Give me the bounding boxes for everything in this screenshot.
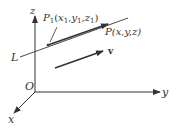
x-axis bbox=[14, 92, 35, 113]
vector-v-label: v bbox=[107, 46, 114, 56]
p1-pointer bbox=[50, 27, 57, 42]
p-label: P(x,y,z) bbox=[104, 26, 141, 37]
x-axis-label: x bbox=[8, 113, 15, 126]
y-axis-label: y bbox=[161, 86, 169, 99]
diagram-canvas: z y x O L P1(x1,y1,z1) P(x,y,z) v bbox=[0, 0, 178, 137]
origin-label: O bbox=[25, 80, 34, 93]
z-axis-label: z bbox=[29, 5, 36, 16]
p1-point bbox=[47, 44, 50, 47]
vector-v bbox=[55, 51, 103, 68]
p1-label: P1(x1,y1,z1) bbox=[42, 12, 98, 25]
line-L-label: L bbox=[10, 51, 18, 64]
